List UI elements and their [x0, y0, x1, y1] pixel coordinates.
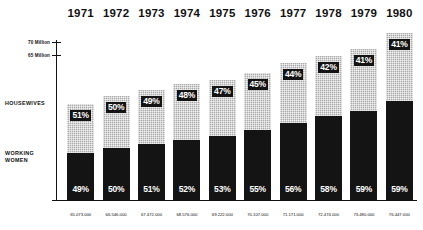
bar-label-working-women: 56% — [285, 185, 301, 194]
legend-label-working-women: WORKING WOMEN — [5, 150, 34, 164]
bar-column: 41% 59% — [382, 33, 417, 200]
bar-total-value: 65.073.000 — [63, 212, 98, 224]
bar-segment-housewives: 41% — [350, 49, 377, 111]
bar-label-housewives: 41% — [389, 39, 409, 50]
bar-column: 45% 55% — [240, 33, 275, 200]
bar-segment-working-women: 56% — [280, 123, 307, 200]
bar-label-working-women: 55% — [250, 185, 266, 194]
bar-total-value: 68.576.000 — [169, 212, 204, 224]
bar-label-housewives: 45% — [248, 79, 268, 90]
bar-column: 42% 58% — [311, 33, 346, 200]
bar-segment-working-women: 50% — [103, 148, 130, 200]
year-label: 1972 — [98, 6, 133, 26]
bar-segment-housewives: 47% — [209, 80, 236, 136]
bar-total-value: 67.472.000 — [134, 212, 169, 224]
bar-segment-housewives: 44% — [280, 63, 307, 123]
y-axis: 70 Million 65 Million — [52, 40, 61, 200]
bar-label-housewives: 41% — [354, 55, 374, 66]
bar-total-value: 76.447.000 — [382, 212, 417, 224]
bar-segment-working-women: 59% — [350, 111, 377, 200]
x-axis-year-labels: 1971 1972 1973 1974 1975 1976 1977 1978 … — [63, 6, 417, 26]
bar-column: 51% 49% — [63, 33, 98, 200]
bar-label-housewives: 47% — [212, 86, 232, 97]
y-axis-line — [56, 40, 57, 200]
bar-segment-working-women: 58% — [315, 116, 342, 200]
bar-total-value: 73.480.000 — [346, 212, 381, 224]
bar-total-value: 71.171.000 — [275, 212, 310, 224]
plot-area: 51% 49% 50% 50% 49% — [63, 33, 417, 200]
bar-segment-housewives: 51% — [67, 104, 94, 153]
bar-label-working-women: 58% — [320, 185, 336, 194]
year-label: 1976 — [240, 6, 275, 26]
bar-segment-working-women: 52% — [173, 140, 200, 200]
bar-label-housewives: 50% — [106, 102, 126, 113]
stacked-bar: 47% 53% — [209, 80, 236, 200]
bar-segment-working-women: 49% — [67, 153, 94, 200]
stacked-bar: 48% 52% — [173, 84, 200, 200]
bar-segment-working-women: 55% — [244, 130, 271, 200]
year-label: 1980 — [382, 6, 417, 26]
bar-label-working-women: 59% — [391, 185, 407, 194]
stacked-bar: 49% 51% — [138, 90, 165, 200]
bar-column: 50% 50% — [98, 33, 133, 200]
y-axis-tick-65m — [52, 55, 61, 56]
stacked-bar: 41% 59% — [386, 33, 413, 200]
bar-total-value: 69.222.000 — [205, 212, 240, 224]
year-label: 1973 — [134, 6, 169, 26]
stacked-bar: 41% 59% — [350, 49, 377, 200]
bar-label-working-women: 53% — [214, 185, 230, 194]
bar-label-housewives: 44% — [283, 69, 303, 80]
bar-label-working-women: 59% — [356, 185, 372, 194]
bar-label-housewives: 51% — [70, 110, 90, 121]
stacked-bar: 45% 55% — [244, 73, 271, 200]
bar-segment-housewives: 41% — [386, 33, 413, 101]
stacked-bar: 51% 49% — [67, 104, 94, 200]
bar-column: 48% 52% — [169, 33, 204, 200]
y-axis-tick-label: 70 Million — [28, 40, 50, 45]
bar-label-working-women: 51% — [143, 185, 159, 194]
bar-segment-housewives: 48% — [173, 84, 200, 140]
bar-total-value: 66.546.000 — [98, 212, 133, 224]
year-label: 1979 — [346, 6, 381, 26]
bar-total-values-row: 65.073.000 66.546.000 67.472.000 68.576.… — [63, 212, 417, 224]
bar-label-working-women: 49% — [72, 185, 88, 194]
stacked-bar: 50% 50% — [103, 96, 130, 200]
bar-total-value: 72.474.000 — [311, 212, 346, 224]
year-label: 1971 — [63, 6, 98, 26]
bar-segment-housewives: 45% — [244, 73, 271, 130]
legend-label-housewives: HOUSEWIVES — [5, 100, 45, 107]
bar-segment-housewives: 50% — [103, 96, 130, 148]
bar-segment-housewives: 49% — [138, 90, 165, 144]
stacked-bar: 44% 56% — [280, 63, 307, 200]
bar-label-housewives: 42% — [318, 62, 338, 73]
y-axis-tick-label: 65 Million — [28, 53, 50, 58]
bar-column: 44% 56% — [275, 33, 310, 200]
bar-label-working-women: 50% — [108, 185, 124, 194]
bar-segment-working-women: 53% — [209, 136, 236, 200]
x-axis-baseline — [52, 200, 417, 201]
stacked-bar: 42% 58% — [315, 56, 342, 200]
stacked-bar-chart: 1971 1972 1973 1974 1975 1976 1977 1978 … — [0, 0, 423, 230]
year-label: 1977 — [275, 6, 310, 26]
bar-segment-working-women: 59% — [386, 101, 413, 200]
bar-label-working-women: 52% — [179, 185, 195, 194]
bar-column: 47% 53% — [205, 33, 240, 200]
bar-column: 49% 51% — [134, 33, 169, 200]
bar-label-housewives: 48% — [177, 90, 197, 101]
year-label: 1975 — [205, 6, 240, 26]
bar-label-housewives: 49% — [141, 96, 161, 107]
bar-segment-housewives: 42% — [315, 56, 342, 116]
bar-column: 41% 59% — [346, 33, 381, 200]
bar-total-value: 70.107.000 — [240, 212, 275, 224]
year-label: 1978 — [311, 6, 346, 26]
y-axis-tick-70m — [52, 42, 61, 43]
bar-segment-working-women: 51% — [138, 144, 165, 200]
year-label: 1974 — [169, 6, 204, 26]
